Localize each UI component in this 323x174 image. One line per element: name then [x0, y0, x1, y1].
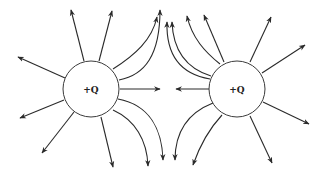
field-lines-svg [0, 0, 323, 174]
left-charge-label: +Q [83, 85, 98, 95]
field-lines-diagram: +Q +Q [0, 0, 323, 174]
right-charge-label: +Q [229, 85, 244, 95]
